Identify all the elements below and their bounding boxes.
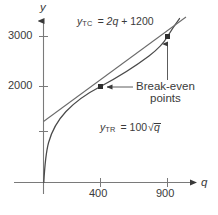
break-even-chart-figure: y q 3000 2000 400 900 yTC = 2q + 1200 yT… bbox=[0, 0, 218, 215]
break-even-line1: Break-even bbox=[136, 80, 195, 92]
square-root-icon: √q bbox=[147, 122, 160, 133]
total-cost-equation: yTC = 2q + 1200 bbox=[77, 16, 154, 28]
total-cost-line bbox=[44, 17, 187, 122]
y-tick-label-2000: 2000 bbox=[8, 80, 32, 92]
break-even-marker-400 bbox=[98, 84, 103, 89]
y-axis-label: y bbox=[40, 1, 46, 13]
tc-eq-subscript: TC bbox=[82, 19, 92, 28]
break-even-line2: points bbox=[136, 92, 195, 104]
tr-eq-subscript: TR bbox=[105, 125, 115, 134]
total-revenue-equation: yTR = 100√q bbox=[100, 122, 160, 134]
x-tick-label-900: 900 bbox=[156, 188, 174, 200]
chart-plot-area bbox=[0, 0, 218, 215]
tc-eq-rhs: = 2q + 1200 bbox=[95, 15, 153, 27]
break-even-marker-900 bbox=[165, 34, 170, 39]
break-even-annotation: Break-even points bbox=[136, 80, 195, 104]
x-tick-label-400: 400 bbox=[89, 188, 107, 200]
y-tick-label-3000: 3000 bbox=[8, 30, 32, 42]
tr-eq-rhs: = 100 bbox=[118, 121, 147, 133]
x-axis-label: q bbox=[201, 176, 207, 188]
